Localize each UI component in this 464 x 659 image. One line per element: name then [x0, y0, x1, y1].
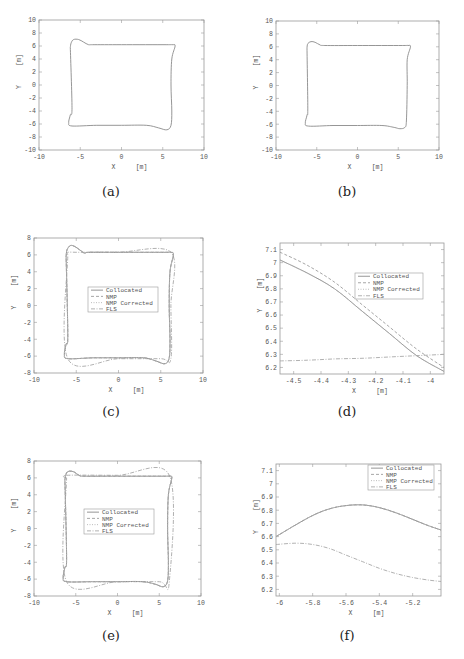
- y-tick-label: -6: [28, 121, 36, 128]
- x-tick-label: 10: [200, 154, 208, 161]
- x-axis-unit: [m]: [133, 387, 145, 394]
- legend: CollocatedNMPNMP CorrectedFLS: [368, 465, 434, 491]
- x-tick-label: -4.5: [286, 378, 302, 385]
- y-tick-label: -4: [23, 337, 31, 344]
- series-fls: [276, 543, 441, 581]
- x-tick-label: -5: [76, 154, 84, 161]
- subfigure-f: -6-5.8-5.6-5.4-5.26.26.36.46.56.66.76.86…: [232, 440, 464, 659]
- x-tick-label: 10: [199, 377, 207, 384]
- legend-label: FLS: [386, 484, 397, 491]
- y-tick-label: 0: [27, 303, 31, 310]
- y-tick-label: 6.2: [265, 365, 277, 372]
- caption-d: (d): [327, 404, 367, 419]
- y-tick-label: 2: [27, 509, 31, 516]
- y-tick-label: 4: [27, 269, 31, 276]
- y-tick-label: -2: [23, 320, 31, 327]
- x-tick-label: 10: [197, 600, 205, 607]
- x-tick-label: 10: [435, 154, 443, 161]
- x-tick-label: -5: [313, 154, 321, 161]
- caption-a: (a): [91, 184, 131, 199]
- y-tick-label: 0: [32, 82, 36, 89]
- y-tick-label: 7.1: [261, 468, 273, 475]
- legend: CollocatedNMPNMP CorrectedFLS: [88, 287, 158, 313]
- y-axis-label: Y: [16, 85, 23, 89]
- legend: CollocatedNMPNMP CorrectedFLS: [355, 273, 423, 300]
- series-nmp: [280, 252, 444, 367]
- caption-f: (f): [327, 628, 367, 643]
- x-tick-label: 0: [356, 154, 360, 161]
- y-tick-label: 6: [32, 43, 36, 50]
- y-tick-label: 6: [269, 44, 273, 51]
- y-tick-label: 6.5: [261, 547, 273, 554]
- y-tick-label: -8: [23, 593, 31, 600]
- y-tick-label: -4: [28, 108, 36, 115]
- legend-label: FLS: [373, 293, 384, 300]
- y-tick-label: -2: [23, 543, 31, 550]
- x-tick-label: 5: [161, 154, 165, 161]
- legend: CollocatedNMPNMP CorrectedFLS: [84, 509, 154, 535]
- y-tick-label: 8: [27, 235, 31, 242]
- y-tick-label: -2: [265, 96, 273, 103]
- y-tick-label: 8: [269, 31, 273, 38]
- plot-b: -10-50510-10-8-6-4-20246810X[m]Y[m]: [232, 0, 464, 210]
- x-axis-unit: [m]: [136, 164, 148, 171]
- axes-frame: [39, 20, 204, 150]
- y-tick-label: 6.7: [261, 521, 273, 528]
- x-axis-unit: [m]: [372, 164, 384, 171]
- y-tick-label: 2: [32, 69, 36, 76]
- y-tick-label: 6.9: [261, 494, 273, 501]
- x-tick-label: -4.2: [368, 378, 384, 385]
- subfigure-a: -10-50510-10-8-6-4-20246810X[m]Y[m]: [0, 0, 232, 210]
- x-tick-label: -5: [72, 377, 80, 384]
- subfigure-e: -10-50510-8-6-4-202468X[m]Y[m]Collocated…: [0, 440, 232, 659]
- x-tick-label: 5: [396, 154, 400, 161]
- y-axis-unit: [m]: [253, 499, 260, 511]
- y-axis-unit: [m]: [11, 275, 18, 287]
- y-tick-label: 6.6: [261, 534, 273, 541]
- x-axis-label: X: [108, 610, 112, 617]
- y-tick-label: 0: [27, 526, 31, 533]
- y-axis-unit: [m]: [257, 278, 264, 290]
- y-tick-label: 7: [273, 260, 277, 267]
- x-tick-label: -6: [275, 600, 283, 607]
- y-tick-label: -4: [23, 560, 31, 567]
- y-axis-label: Y: [253, 85, 260, 89]
- y-tick-label: -6: [265, 122, 273, 129]
- x-tick-label: -10: [28, 600, 40, 607]
- x-tick-label: -10: [28, 377, 40, 384]
- y-tick-label: 7: [269, 481, 273, 488]
- y-tick-label: -2: [28, 95, 36, 102]
- x-axis-unit: [m]: [376, 388, 388, 395]
- x-tick-label: 5: [157, 600, 161, 607]
- y-tick-label: 6.4: [265, 339, 277, 346]
- x-axis-label: X: [352, 388, 356, 395]
- x-axis-unit: [m]: [132, 610, 144, 617]
- subfigure-d: -4.5-4.4-4.3-4.2-4.1-46.26.36.46.56.66.7…: [232, 220, 464, 430]
- y-tick-label: 8: [27, 458, 31, 465]
- y-tick-label: -8: [265, 134, 273, 141]
- caption-c: (c): [91, 404, 131, 419]
- y-axis-label: Y: [11, 305, 18, 309]
- y-tick-label: 7.1: [265, 247, 277, 254]
- x-axis-label: X: [349, 610, 353, 617]
- plot-e: -10-50510-8-6-4-202468X[m]Y[m]Collocated…: [0, 440, 232, 659]
- y-tick-label: -8: [28, 134, 36, 141]
- y-tick-label: 4: [269, 57, 273, 64]
- y-axis-label: Y: [257, 308, 264, 312]
- y-tick-label: -8: [23, 370, 31, 377]
- y-tick-label: 10: [28, 17, 36, 24]
- legend-label: FLS: [102, 528, 113, 535]
- y-tick-label: 2: [27, 286, 31, 293]
- series-nmp-corrected: [276, 505, 441, 537]
- y-tick-label: 4: [32, 56, 36, 63]
- x-tick-label: 0: [120, 154, 124, 161]
- y-tick-label: 6.8: [265, 286, 277, 293]
- x-tick-label: -4.3: [341, 378, 357, 385]
- x-tick-label: -5.8: [305, 600, 321, 607]
- x-tick-label: -5.4: [372, 600, 388, 607]
- plot-a: -10-50510-10-8-6-4-20246810X[m]Y[m]: [0, 0, 232, 210]
- y-tick-label: -4: [265, 109, 273, 116]
- y-axis-label: Y: [11, 528, 18, 532]
- y-tick-label: 6: [27, 252, 31, 259]
- x-axis-label: X: [109, 387, 113, 394]
